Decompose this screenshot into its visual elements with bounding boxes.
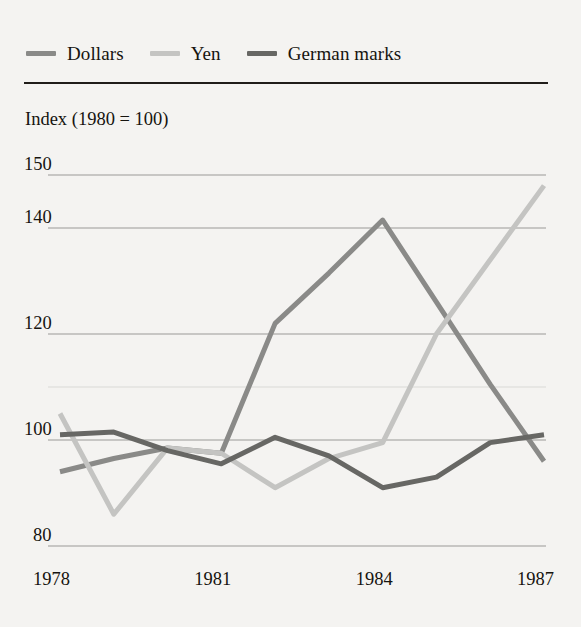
legend-item-german-marks: German marks xyxy=(247,44,402,63)
header-divider xyxy=(24,82,548,84)
legend-item-dollars: Dollars xyxy=(26,44,124,63)
series-line-dollars xyxy=(60,220,544,472)
y-tick-80: 80 xyxy=(33,526,52,545)
y-tick-150: 150 xyxy=(24,155,52,174)
chart-page: Dollars Yen German marks Index (1980 = 1… xyxy=(0,0,581,627)
legend-swatch-yen xyxy=(150,51,180,56)
y-tick-140: 140 xyxy=(24,208,52,227)
x-tick-1981: 1981 xyxy=(194,570,231,589)
legend-label-yen: Yen xyxy=(191,44,221,63)
chart-legend: Dollars Yen German marks xyxy=(26,40,401,66)
line-chart-svg xyxy=(24,140,552,555)
legend-label-german-marks: German marks xyxy=(288,44,402,63)
x-tick-1978: 1978 xyxy=(33,570,70,589)
y-tick-100: 100 xyxy=(24,420,52,439)
legend-swatch-dollars xyxy=(26,51,56,56)
legend-item-yen: Yen xyxy=(150,44,221,63)
x-tick-1987: 1987 xyxy=(517,570,554,589)
x-tick-1984: 1984 xyxy=(356,570,393,589)
legend-swatch-german-marks xyxy=(247,51,277,56)
series-line-yen xyxy=(60,186,544,515)
y-tick-120: 120 xyxy=(24,314,52,333)
y-axis-title: Index (1980 = 100) xyxy=(25,110,169,129)
plot-area xyxy=(24,140,552,555)
legend-label-dollars: Dollars xyxy=(67,44,124,63)
x-axis-tick-labels: 1978198119841987 xyxy=(0,560,581,600)
